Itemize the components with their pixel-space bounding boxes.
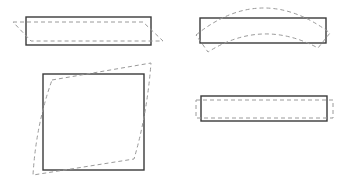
deformation-diagram <box>0 0 351 184</box>
undeformed-shape <box>200 18 326 43</box>
panel-axial-bar <box>196 96 333 121</box>
deformed-shape <box>33 63 151 175</box>
deformed-shape <box>196 100 333 118</box>
deformed-shape <box>196 8 330 52</box>
panel-shear-beam <box>13 17 163 45</box>
deformed-shape <box>13 22 163 41</box>
panel-shear-square <box>33 63 151 175</box>
panel-bending-beam <box>196 8 330 52</box>
undeformed-shape <box>43 74 144 170</box>
